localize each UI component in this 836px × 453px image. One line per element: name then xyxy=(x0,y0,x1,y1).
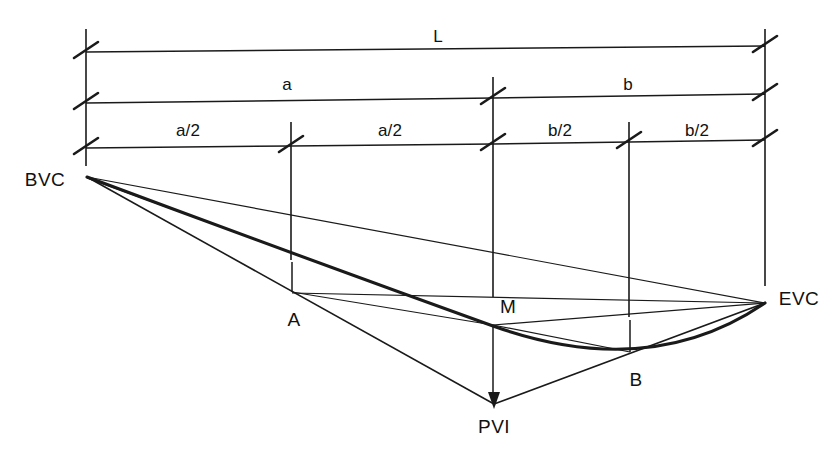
dimension-row-halves xyxy=(74,84,777,109)
dimension-line-quarter-1 xyxy=(86,146,291,148)
point-label-evc: EVC xyxy=(779,288,819,310)
dimension-label-a-half-right: a/2 xyxy=(378,121,402,141)
point-label-bvc: BVC xyxy=(25,169,65,191)
dimension-label-total-length: L xyxy=(433,27,443,47)
dimension-line-quarter-3 xyxy=(493,142,629,144)
point-label-pvi: PVI xyxy=(478,416,510,438)
diagram-canvas xyxy=(0,0,836,453)
dimension-row-total-length xyxy=(74,36,777,58)
dimension-line-L xyxy=(86,46,765,52)
vertical-curve-diagram: L a b a/2 a/2 b/2 b/2 BVC A M B EVC PVI xyxy=(0,0,836,453)
dimension-label-a-half-left: a/2 xyxy=(176,121,200,141)
dimension-label-b-half-right: b/2 xyxy=(685,121,709,141)
point-label-b: B xyxy=(629,369,642,391)
dimension-line-quarter-2 xyxy=(291,144,493,146)
dimension-label-b-half-left: b/2 xyxy=(548,121,572,141)
point-label-a: A xyxy=(287,309,300,331)
point-label-m: M xyxy=(500,296,516,318)
pvi-arrowhead xyxy=(488,392,500,409)
dimension-label-a: a xyxy=(282,75,292,95)
dimension-line-a xyxy=(86,98,493,103)
parabolic-vertical-curve xyxy=(87,177,765,349)
connector-a-to-evc xyxy=(292,293,765,303)
dimension-label-b: b xyxy=(623,75,633,95)
chord-bvc-evc xyxy=(87,177,765,303)
